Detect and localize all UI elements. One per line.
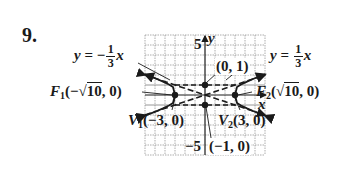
point-bottom-label: (−1, 0) <box>208 138 251 155</box>
y-tick-5: 5 <box>194 36 202 53</box>
focus-2-post: , 0) <box>299 83 319 99</box>
asym-pos-fraction: 13 <box>294 44 303 69</box>
point-top-label: (0, 1) <box>215 58 250 75</box>
frac-num: 1 <box>108 44 114 55</box>
frac-num: 1 <box>295 44 301 55</box>
vertex-1-label: V1(−3, 0) <box>128 112 184 130</box>
asym-pos-eq: = <box>277 47 293 63</box>
vertex-2-coords: (3, 0) <box>233 112 266 128</box>
x-axis-label: x <box>258 96 266 113</box>
asym-neg-eq: = − <box>81 47 106 63</box>
asym-pos-lhs: y <box>270 47 277 63</box>
asym-neg-var: x <box>116 47 124 63</box>
vertex-2-label: V2(3, 0) <box>218 112 266 130</box>
y-tick-neg5: −5 <box>185 138 201 155</box>
vertex-1-point <box>172 92 178 98</box>
asymptote-neg-label: y = −13x <box>74 44 124 69</box>
y-axis-label: y <box>208 30 215 47</box>
focus-2-pre: ( <box>271 83 276 99</box>
frac-den: 3 <box>295 58 301 69</box>
asymptote-pos-label: y = 13x <box>270 44 311 69</box>
vertex-1-coords: (−3, 0) <box>143 112 184 128</box>
vertex-2-point <box>232 92 238 98</box>
frac-den: 3 <box>108 58 114 69</box>
asym-neg-fraction: 13 <box>106 44 115 69</box>
problem-number: 9. <box>22 24 37 47</box>
point-0-1 <box>202 82 208 88</box>
vertex-1-name: V <box>128 112 138 128</box>
asym-neg-lhs: y <box>74 47 81 63</box>
point-0-neg1 <box>202 102 208 108</box>
focus-2-radicand: 10 <box>284 82 299 99</box>
focus-1-pre: (− <box>65 83 79 99</box>
asym-pos-var: x <box>304 47 312 63</box>
vertex-2-name: V <box>218 112 228 128</box>
focus-1-radicand: 10 <box>87 82 102 99</box>
focus-1-post: , 0) <box>102 83 122 99</box>
focus-1-name: F <box>50 83 60 99</box>
focus-1-label: F1(−√10, 0) <box>50 83 122 101</box>
